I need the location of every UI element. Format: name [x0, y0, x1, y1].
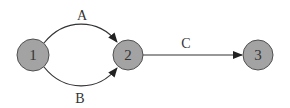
node-1-label: 1 [29, 47, 37, 63]
node-3-label: 3 [254, 47, 262, 63]
node-3: 3 [243, 40, 273, 70]
edge-b-line [44, 67, 117, 86]
edge-b: B [44, 67, 117, 106]
edge-c-label: C [181, 36, 190, 51]
edge-a-label: A [77, 8, 88, 23]
graph-diagram: A B C 1 2 3 [0, 0, 290, 108]
edge-a-line [44, 24, 117, 43]
edge-b-label: B [75, 91, 84, 106]
edge-a: A [44, 8, 117, 43]
node-2-label: 2 [124, 47, 132, 63]
edge-c: C [143, 36, 242, 55]
node-1: 1 [17, 39, 49, 71]
node-2: 2 [113, 40, 143, 70]
